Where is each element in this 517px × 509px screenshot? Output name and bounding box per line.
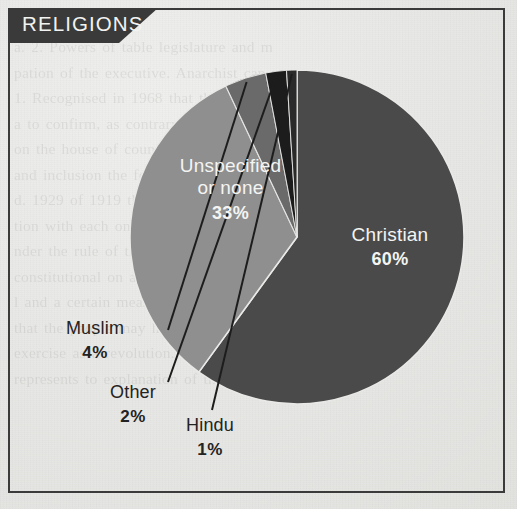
pie-slices-group <box>130 70 464 404</box>
pie-chart: Christian 60% Unspecified or none 33% Mu… <box>0 0 517 509</box>
pie-chart-svg <box>0 0 517 509</box>
page-title: RELIGIONS <box>22 12 144 36</box>
